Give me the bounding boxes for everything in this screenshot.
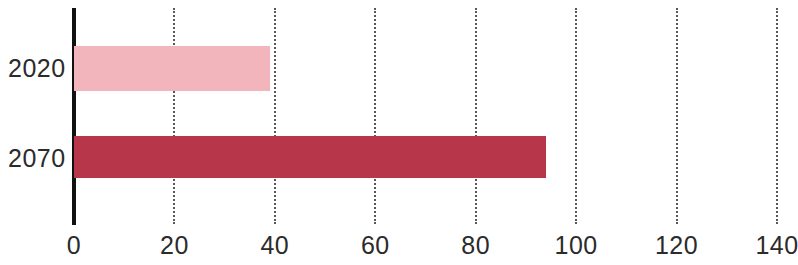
plot-area: 2020 2070 020406080100120140 — [0, 0, 798, 265]
x-axis-tick-label-60: 60 — [361, 231, 390, 260]
gridline-80 — [475, 8, 477, 224]
x-axis-tick-label-20: 20 — [160, 231, 189, 260]
y-axis-label-2020: 2020 — [8, 54, 66, 83]
x-axis-tick-label-120: 120 — [655, 231, 698, 260]
gridline-40 — [274, 8, 276, 224]
bar-chart: 2020 2070 020406080100120140 — [0, 0, 798, 265]
bar-2070 — [74, 136, 546, 178]
gridline-140 — [776, 8, 778, 224]
y-axis-label-2070: 2070 — [8, 144, 66, 173]
y-axis-line — [72, 8, 76, 225]
gridline-60 — [374, 8, 376, 224]
x-axis-tick-label-100: 100 — [555, 231, 598, 260]
bar-2020 — [74, 46, 270, 91]
gridline-100 — [575, 8, 577, 224]
gridline-120 — [676, 8, 678, 224]
x-axis-tick-label-0: 0 — [67, 231, 81, 260]
x-axis-tick-label-40: 40 — [260, 231, 289, 260]
x-axis-tick-label-80: 80 — [461, 231, 490, 260]
gridline-20 — [173, 8, 175, 224]
x-axis-tick-label-140: 140 — [755, 231, 798, 260]
